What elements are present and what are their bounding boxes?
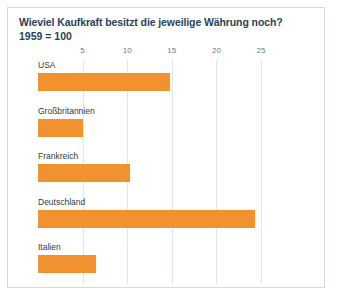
chart-title: Wieviel Kaufkraft besitzt die jeweilige … [19,16,309,29]
gridline-15 [172,60,173,284]
tick-label-20: 20 [212,46,221,55]
bar-label-frankreich: Frankreich [38,151,78,161]
bar-label-italien: Italien [38,242,61,252]
bar-label-usa: USA [38,60,55,70]
chart-subtitle: 1959 = 100 [19,30,309,43]
chart-header: Wieviel Kaufkraft besitzt die jeweilige … [19,16,309,43]
bar-italien [38,255,96,273]
tick-label-15: 15 [167,46,176,55]
gridline-20 [216,60,217,284]
chart-card: Wieviel Kaufkraft besitzt die jeweilige … [7,7,325,288]
tick-label-25: 25 [257,46,266,55]
bar-label-deutschland: Deutschland [38,197,85,207]
plot-area: 510152025 USAGroßbritannienFrankreichDeu… [8,46,324,287]
bar-label-gro-britannien: Großbritannien [38,106,95,116]
bar-frankreich [38,164,130,182]
tick-label-10: 10 [123,46,132,55]
bar-deutschland [38,210,255,228]
bar-usa [38,73,170,91]
tick-label-5: 5 [80,46,84,55]
gridline-25 [261,60,262,284]
bar-gro-britannien [38,119,83,137]
